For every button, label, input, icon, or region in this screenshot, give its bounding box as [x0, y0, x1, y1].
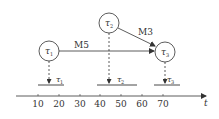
axis-label-t: t [204, 98, 208, 108]
svg-text:3: 3 [171, 79, 174, 85]
svg-text:2: 2 [121, 79, 124, 85]
tick-20: 20 [53, 99, 65, 109]
tick-30: 30 [74, 99, 86, 109]
edge-m5-label: M5 [74, 40, 89, 50]
node-tau3: τ 3 [155, 42, 175, 62]
tick-60: 60 [136, 99, 148, 109]
task-timeline-diagram: M5 M3 τ 1 τ 2 τ 3 τ 1 τ 2 τ 3 [0, 0, 219, 119]
timeline-bar-tau3: τ 3 [154, 75, 180, 85]
tick-10: 10 [32, 99, 44, 109]
node-tau1: τ 1 [39, 41, 59, 61]
svg-text:1: 1 [60, 79, 63, 85]
edge-m3-label: M3 [138, 27, 153, 37]
node-tau2: τ 2 [99, 13, 119, 33]
tick-70: 70 [157, 99, 169, 109]
timeline-bar-tau1: τ 1 [38, 75, 64, 85]
timeline-bar-tau2: τ 2 [97, 75, 137, 85]
time-axis: 10 20 30 40 50 60 70 t [16, 94, 208, 109]
svg-text:3: 3 [166, 52, 169, 58]
tick-50: 50 [115, 99, 127, 109]
svg-text:2: 2 [110, 23, 113, 29]
svg-text:1: 1 [50, 51, 53, 57]
tick-40: 40 [94, 99, 106, 109]
